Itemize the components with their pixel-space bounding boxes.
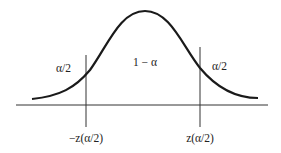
bell-curve — [32, 11, 258, 99]
left-critical-label: −z(α/2) — [69, 132, 103, 145]
center-area-label: 1 − α — [133, 56, 157, 68]
right-tail-label: α/2 — [212, 60, 227, 72]
right-critical-label: z(α/2) — [186, 132, 214, 145]
normal-curve-diagram: α/2 1 − α α/2 −z(α/2) z(α/2) — [0, 0, 281, 153]
left-tail-label: α/2 — [56, 62, 71, 74]
